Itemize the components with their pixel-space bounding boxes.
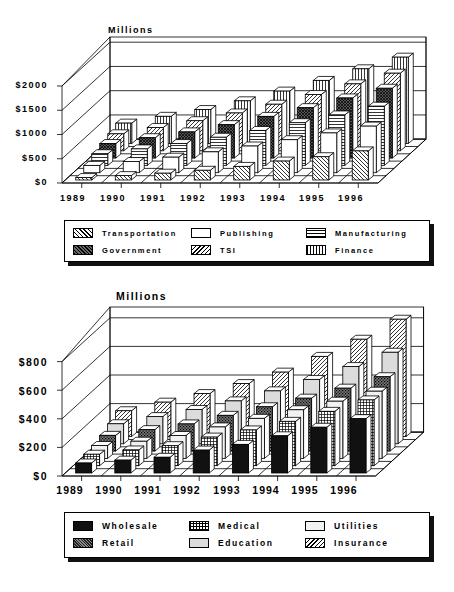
chart2-xtick: 1995: [285, 484, 325, 496]
chart2-xtick: 1993: [207, 484, 247, 496]
chart1-xtick: 1990: [93, 193, 133, 203]
swatch-grid-icon: [189, 521, 209, 531]
swatch-crosshatch-icon: [73, 245, 93, 255]
chart1-xtick: 1989: [53, 193, 93, 203]
legend-item-education: Education: [189, 538, 274, 548]
chart2-legend: Wholesale Medical Utilities Retail Educa…: [64, 512, 430, 558]
chart1-xtick: 1994: [253, 193, 293, 203]
legend-item-publishing: Publishing: [191, 228, 274, 238]
bar-wholesale-1991: [154, 453, 175, 473]
legend-item-government: Government: [73, 245, 162, 255]
bar-transportation-1994: [273, 157, 294, 180]
chart2-xtick: 1990: [89, 484, 129, 496]
chart1-xtick: 1991: [133, 193, 173, 203]
bar-wholesale-1990: [115, 456, 136, 473]
chart1-ytick: $1000: [0, 128, 48, 138]
swatch-dots-icon: [73, 538, 93, 548]
swatch-light-icon: [305, 521, 325, 531]
bar-publishing-1989: [84, 161, 105, 172]
bar-transportation-1991: [155, 169, 176, 180]
legend-item-insurance: Insurance: [305, 538, 389, 548]
bar-transportation-1996: [352, 147, 373, 180]
chart2-xtick: 1996: [324, 484, 364, 496]
bar-transportation-1995: [313, 153, 334, 180]
chart2-ytick: $600: [0, 385, 48, 397]
legend-item-utilities: Utilities: [305, 521, 379, 531]
legend-item-finance: Finance: [306, 245, 375, 255]
chart2-ytick: $0: [0, 470, 48, 482]
bar-transportation-1993: [234, 162, 255, 180]
bar-transportation-1990: [115, 172, 136, 180]
bar-wholesale-1989: [76, 459, 97, 473]
swatch-diag-fwd-icon: [191, 245, 211, 255]
chart2-xtick: 1989: [50, 484, 90, 496]
chart1-ytick: $500: [0, 153, 48, 163]
bar-publishing-1990: [123, 158, 144, 173]
legend-item-medical: Medical: [189, 521, 260, 531]
swatch-diag-fwd-icon: [305, 538, 325, 548]
swatch-horizontal-lines-icon: [306, 228, 326, 238]
chart1-xtick: 1993: [213, 193, 253, 203]
bar-wholesale-1994: [272, 432, 293, 473]
chart2-ytick: $800: [0, 356, 48, 368]
chart1-xtick: 1992: [173, 193, 213, 203]
chart-industry-revenue-2: Millions $0 $200 $400 $600 $800 1989 199…: [0, 285, 454, 585]
swatch-black-icon: [73, 521, 93, 531]
chart2-xtick: 1991: [128, 484, 168, 496]
swatch-vertical-lines-icon: [306, 245, 326, 255]
bar-wholesale-1996: [350, 415, 371, 473]
chart1-ytick: $2000: [0, 80, 48, 90]
chart2-xtick: 1992: [167, 484, 207, 496]
chart1-legend: Transportation Publishing Manufacturing …: [64, 220, 430, 262]
bar-wholesale-1993: [232, 440, 253, 473]
legend-item-wholesale: Wholesale: [73, 521, 158, 531]
chart2-unit-label: Millions: [116, 290, 167, 302]
chart1-ytick: $0: [0, 177, 48, 187]
chart2-ytick: $400: [0, 413, 48, 425]
legend-item-manufacturing: Manufacturing: [306, 228, 407, 238]
bar-wholesale-1992: [193, 446, 214, 473]
swatch-white-icon: [191, 228, 211, 238]
swatch-lightgray-icon: [189, 538, 209, 548]
swatch-diag-back-icon: [73, 228, 93, 238]
legend-item-tsi: TSI: [191, 245, 236, 255]
chart-industry-revenue-1: Millions $0 $500 $1000 $1500 $2000 1989 …: [0, 0, 454, 285]
chart1-xtick: 1995: [292, 193, 332, 203]
bar-wholesale-1995: [311, 423, 332, 473]
legend-item-retail: Retail: [73, 538, 135, 548]
chart1-xtick: 1996: [331, 193, 371, 203]
chart2-xtick: 1994: [246, 484, 286, 496]
chart2-ytick: $200: [0, 441, 48, 453]
chart1-ytick: $1500: [0, 104, 48, 114]
legend-item-transportation: Transportation: [73, 228, 177, 238]
chart1-unit-label: Millions: [108, 25, 154, 35]
bar-transportation-1992: [194, 166, 215, 180]
